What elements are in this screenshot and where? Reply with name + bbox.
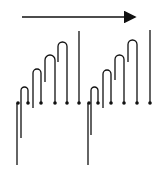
dot (122, 101, 126, 105)
dot (109, 101, 113, 105)
dot (39, 101, 43, 105)
hook-groups (16, 30, 152, 165)
dot (65, 101, 69, 105)
hook-shape (128, 40, 137, 103)
dot (26, 101, 30, 105)
hook-shape (91, 87, 98, 135)
hook-shape (58, 42, 67, 103)
hook-shape (115, 55, 124, 103)
dot (53, 101, 57, 105)
hook-group (16, 31, 81, 165)
hook-group (87, 30, 152, 165)
hook-shape (45, 55, 55, 103)
dot (16, 101, 20, 105)
dot (135, 101, 139, 105)
hook-diagram (0, 0, 160, 177)
dot (96, 101, 100, 105)
hook-shape (21, 87, 28, 138)
dot (148, 101, 152, 105)
dot (77, 101, 81, 105)
dot (87, 101, 91, 105)
